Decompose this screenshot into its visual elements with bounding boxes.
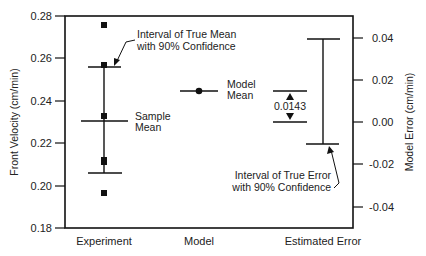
model-mean-label: Mean	[227, 89, 253, 101]
left-tick-labels: 0.28 0.26 0.24 0.22 0.20 0.18	[31, 10, 52, 234]
y2-tick-label: -0.04	[369, 201, 394, 213]
y-tick-label: 0.18	[31, 222, 52, 234]
y2-tick-label: 0.04	[372, 32, 393, 44]
model-mean-point	[196, 88, 203, 95]
svg-text:Interval of True Mean: Interval of True Mean	[137, 28, 236, 40]
data-point	[101, 22, 107, 28]
y2-tick-label: 0.00	[372, 116, 393, 128]
x-category-label: Estimated Error	[285, 235, 362, 247]
svg-text:with 90% Confidence: with 90% Confidence	[231, 181, 331, 193]
arrow-up-icon	[286, 93, 294, 100]
chart: 0.28 0.26 0.24 0.22 0.20 0.18 Front Velo…	[0, 0, 426, 256]
y-tick-label: 0.24	[31, 95, 52, 107]
y2-axis-title: Model Error (cm/min)	[403, 73, 415, 172]
y-tick-label: 0.26	[31, 52, 52, 64]
y2-tick-label: -0.02	[369, 158, 394, 170]
right-tick-labels: 0.04 0.02 0.00 -0.02 -0.04	[369, 32, 394, 213]
y-tick-label: 0.22	[31, 137, 52, 149]
annotation-true-mean: Interval of True Mean with 90% Confidenc…	[114, 28, 236, 66]
difference-value: 0.0143	[274, 100, 306, 112]
svg-text:with 90% Confidence: with 90% Confidence	[136, 40, 236, 52]
x-category-label: Model	[184, 235, 214, 247]
svg-text:Interval of True Error: Interval of True Error	[235, 169, 332, 181]
left-axis	[55, 16, 65, 228]
arrow-down-icon	[286, 113, 294, 120]
difference-marker: 0.0143	[273, 91, 307, 122]
estimated-error-series	[306, 39, 340, 144]
experiment-series	[81, 22, 128, 196]
right-axis	[353, 38, 363, 207]
x-category-label: Experiment	[76, 235, 132, 247]
model-series	[180, 88, 218, 95]
annotation-true-error: Interval of True Error with 90% Confiden…	[231, 146, 339, 193]
data-point	[101, 157, 107, 165]
data-point	[101, 62, 107, 68]
y-tick-label: 0.28	[31, 10, 52, 22]
y2-tick-label: 0.02	[372, 74, 393, 86]
sample-mean-label: Mean	[135, 121, 161, 133]
data-point	[101, 113, 107, 119]
y-axis-title: Front Velocity (cm/min)	[8, 68, 20, 175]
data-point	[101, 190, 107, 196]
y-tick-label: 0.20	[31, 180, 52, 192]
